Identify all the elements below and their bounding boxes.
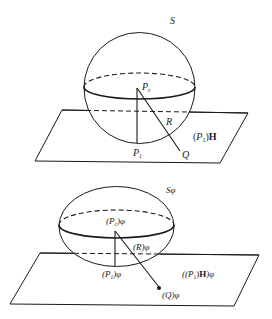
point-q-label-bottom: (Q)φ <box>162 290 179 300</box>
foot-label: P1 <box>132 147 142 159</box>
point-q-label: Q <box>182 149 190 160</box>
plane-label-bottom: ((P1)H)φ <box>182 269 214 280</box>
top-figure <box>35 33 248 164</box>
ellipsoid-title: Sφ <box>166 185 176 195</box>
point-q-dot <box>157 286 161 290</box>
radius-label-bottom: (R)φ <box>133 242 149 252</box>
foot-label-bottom: (P1)φ <box>102 269 121 280</box>
plane-label: (P1)H <box>193 131 217 143</box>
plane-hidden-edge-bottom <box>74 253 159 254</box>
radius-label: R <box>165 116 172 127</box>
sphere-title: S <box>170 15 175 26</box>
diagram-canvas: S Pc R P1 Q (P1)H Sφ (Pc)φ (R)φ (P1)φ (Q… <box>0 0 272 319</box>
sphere-outline <box>84 33 195 144</box>
